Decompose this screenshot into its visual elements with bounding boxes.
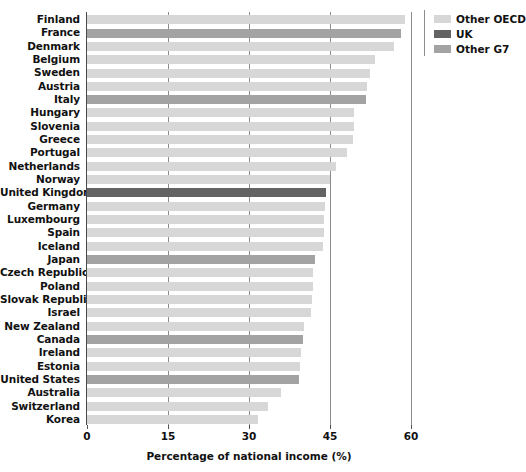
category-label: Slovak Republic: [0, 293, 84, 306]
bar: [87, 295, 312, 304]
category-label: Finland: [0, 13, 84, 26]
bar: [87, 122, 354, 131]
bar-row: [87, 360, 411, 373]
bar-row: [87, 386, 411, 399]
bar-row: [87, 306, 411, 319]
bar: [87, 202, 325, 211]
x-axis: 015304560: [87, 425, 411, 445]
category-axis: FinlandFranceDenmarkBelgiumSwedenAustria…: [0, 13, 84, 426]
bar-row: [87, 40, 411, 53]
category-label: Sweden: [0, 66, 84, 79]
category-label: Portugal: [0, 146, 84, 159]
category-label: Italy: [0, 93, 84, 106]
bar-row: [87, 53, 411, 66]
bar: [87, 95, 366, 104]
bar: [87, 322, 304, 331]
x-tick-label: 45: [323, 430, 338, 442]
legend-item: UK: [434, 27, 526, 41]
bar-row: [87, 26, 411, 39]
category-label: Poland: [0, 280, 84, 293]
category-label: United Kingdom: [0, 186, 84, 199]
bar-row: [87, 146, 411, 159]
category-label: United States: [0, 373, 84, 386]
bar: [87, 268, 313, 277]
bar: [87, 308, 311, 317]
category-label: France: [0, 26, 84, 39]
bar: [87, 15, 405, 24]
bar-row: [87, 293, 411, 306]
bar: [87, 362, 300, 371]
legend-items: Other OECDUKOther G7: [434, 12, 526, 57]
bar-row: [87, 66, 411, 79]
bar: [87, 82, 367, 91]
bar: [87, 55, 375, 64]
bar-row: [87, 173, 411, 186]
legend-label: UK: [456, 28, 473, 40]
bar: [87, 255, 315, 264]
legend-swatch: [434, 15, 451, 24]
category-label: Slovenia: [0, 120, 84, 133]
category-label: Norway: [0, 173, 84, 186]
legend-item: Other OECD: [434, 12, 526, 26]
category-label: Hungary: [0, 106, 84, 119]
bar-rows: [87, 13, 411, 425]
category-label: Iceland: [0, 240, 84, 253]
category-label: New Zealand: [0, 320, 84, 333]
bar-row: [87, 280, 411, 293]
legend-divider: [424, 10, 425, 56]
bar-row: [87, 400, 411, 413]
category-label: Netherlands: [0, 160, 84, 173]
category-label: Luxembourg: [0, 213, 84, 226]
x-tick: [411, 425, 412, 429]
bar: [87, 415, 258, 424]
category-label: Denmark: [0, 40, 84, 53]
gridline: [411, 12, 412, 425]
x-tick-label: 15: [161, 430, 176, 442]
plot-area: [87, 13, 411, 425]
bar-row: [87, 120, 411, 133]
category-label: Belgium: [0, 53, 84, 66]
category-label: Japan: [0, 253, 84, 266]
x-tick-label: 60: [404, 430, 419, 442]
bar-row: [87, 160, 411, 173]
bar: [87, 188, 326, 197]
bar: [87, 135, 353, 144]
legend-swatch: [434, 30, 451, 39]
bar-row: [87, 200, 411, 213]
legend-label: Other G7: [456, 43, 509, 55]
category-label: Israel: [0, 306, 84, 319]
bar-row: [87, 266, 411, 279]
bar: [87, 388, 281, 397]
x-tick-label: 30: [242, 430, 257, 442]
category-label: Canada: [0, 333, 84, 346]
bar-row: [87, 106, 411, 119]
bar-row: [87, 320, 411, 333]
bar-row: [87, 226, 411, 239]
bar: [87, 402, 268, 411]
bar-row: [87, 80, 411, 93]
category-label: Switzerland: [0, 400, 84, 413]
bar-row: [87, 186, 411, 199]
x-tick: [249, 425, 250, 429]
category-label: Korea: [0, 413, 84, 426]
legend-swatch: [434, 45, 451, 54]
bar-row: [87, 93, 411, 106]
bar: [87, 108, 354, 117]
legend: Other OECDUKOther G7: [424, 10, 524, 56]
bar-row: [87, 253, 411, 266]
x-axis-title: Percentage of national income (%): [0, 450, 498, 462]
bar: [87, 29, 401, 38]
bar: [87, 148, 347, 157]
bar: [87, 348, 301, 357]
bar: [87, 162, 336, 171]
bar-row: [87, 13, 411, 26]
x-tick: [87, 425, 88, 429]
category-label: Austria: [0, 80, 84, 93]
bar: [87, 335, 303, 344]
category-label: Germany: [0, 200, 84, 213]
bar-row: [87, 373, 411, 386]
category-label: Czech Republic: [0, 266, 84, 279]
bar: [87, 42, 394, 51]
bar: [87, 228, 324, 237]
